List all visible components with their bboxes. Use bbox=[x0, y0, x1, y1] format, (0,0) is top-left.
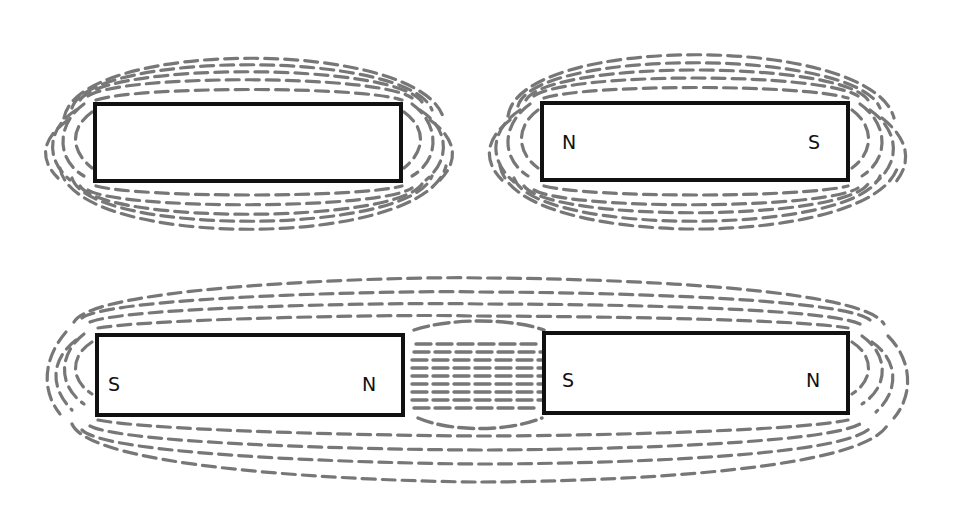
pole-label-south: S bbox=[808, 131, 820, 153]
pole-label-right-north: N bbox=[806, 369, 820, 391]
panel-attracting-pair: S N S N bbox=[47, 278, 907, 482]
pole-label-left-south: S bbox=[108, 373, 120, 395]
magnetic-field-diagram: N S bbox=[0, 0, 961, 510]
field-lines-gap bbox=[412, 321, 544, 429]
magnet-right bbox=[544, 333, 848, 413]
panel-labeled-magnet: N S bbox=[489, 55, 905, 229]
pole-label-north: N bbox=[562, 131, 576, 153]
magnet-labeled bbox=[542, 103, 848, 180]
magnet-unlabeled bbox=[95, 104, 401, 181]
magnet-left bbox=[97, 335, 403, 415]
panel-unlabeled-magnet bbox=[46, 58, 453, 229]
pole-label-left-north: N bbox=[362, 373, 376, 395]
pole-label-right-south: S bbox=[562, 369, 574, 391]
